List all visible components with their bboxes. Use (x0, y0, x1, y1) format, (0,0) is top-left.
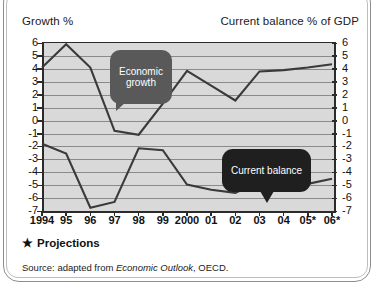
star-icon: ★ (22, 236, 33, 250)
x-axis-tick-mark (65, 211, 67, 216)
projections-footnote-text: Projections (37, 237, 100, 249)
callout-tail-icon (260, 191, 274, 203)
y2-axis-tick-label: -7 (342, 205, 368, 216)
y-axis-tick-label: 6 (12, 37, 38, 48)
left-axis-caption: Growth % (22, 15, 73, 27)
callout-economic-growth-label: Economic growth (119, 66, 163, 89)
source-note: Source: adapted from Economic Outlook, O… (22, 262, 228, 273)
source-publication: Economic Outlook (116, 262, 193, 273)
x-axis-tick-mark (210, 211, 212, 216)
y-axis-tick-label: -5 (12, 179, 38, 190)
y2-axis-tick-label: -2 (342, 140, 368, 151)
x-axis-tick-mark (307, 211, 309, 216)
callout-current-balance-label: Current balance (231, 165, 302, 176)
y2-axis-tick-mark (332, 107, 337, 109)
y2-axis-tick-mark (332, 146, 337, 148)
x-axis-tick-label: 96 (84, 215, 96, 226)
y2-axis-tick-label: -1 (342, 128, 368, 139)
y2-axis-tick-mark (332, 159, 337, 161)
callout-economic-growth: Economic growth (110, 50, 172, 104)
x-axis-tick-label: 99 (157, 215, 169, 226)
source-prefix: Source: adapted from (22, 262, 116, 273)
x-axis-tick-label: 06* (324, 215, 341, 226)
callout-current-balance: Current balance (222, 149, 311, 192)
y2-axis-tick-label: 5 (342, 50, 368, 61)
y-axis-tick-label: -4 (12, 166, 38, 177)
y2-axis-tick-mark (332, 172, 337, 174)
y-axis-tick-label: 4 (12, 63, 38, 74)
x-axis-tick-label: 01 (205, 215, 217, 226)
y2-axis-tick-mark (332, 185, 337, 187)
y-axis-tick-label: 5 (12, 50, 38, 61)
x-axis-tick-label: 04 (278, 215, 290, 226)
source-suffix: , OECD. (193, 262, 228, 273)
y-axis-tick-label: -3 (12, 153, 38, 164)
y2-axis-tick-label: -4 (342, 166, 368, 177)
x-axis-tick-label: 02 (229, 215, 241, 226)
y-axis-tick-label: 0 (12, 115, 38, 126)
y2-axis-tick-label: 0 (342, 115, 368, 126)
y2-axis-tick-mark (332, 120, 337, 122)
x-axis-tick-mark (259, 211, 261, 216)
x-axis-tick-mark (162, 211, 164, 216)
x-axis-tick-mark (138, 211, 140, 216)
right-axis-caption: Current balance % of GDP (220, 15, 359, 27)
x-axis-tick-label: 05* (300, 215, 317, 226)
y2-axis-tick-mark (332, 43, 337, 45)
x-axis-tick-mark (114, 211, 116, 216)
x-axis-tick-mark (186, 211, 188, 216)
y2-axis-tick-mark (332, 198, 337, 200)
y2-axis-tick-label: 6 (342, 37, 368, 48)
y2-axis-tick-label: -5 (342, 179, 368, 190)
x-axis-tick-label: 95 (60, 215, 72, 226)
y2-axis-tick-label: 4 (342, 63, 368, 74)
line-economic-growth (42, 44, 332, 134)
y-axis-tick-label: 2 (12, 89, 38, 100)
callout-tail-icon (116, 102, 126, 111)
y2-axis-tick-mark (332, 81, 337, 83)
y2-axis-tick-label: 1 (342, 102, 368, 113)
y2-axis-tick-mark (332, 94, 337, 96)
x-axis-tick-mark (331, 211, 333, 216)
projections-footnote: ★Projections (22, 236, 100, 250)
y2-axis-tick-label: -3 (342, 153, 368, 164)
x-axis-tick-mark (41, 211, 43, 216)
plot-bottom-axis (42, 211, 336, 213)
x-axis-tick-label: 03 (253, 215, 265, 226)
x-axis-tick-mark (235, 211, 237, 216)
x-axis-tick-label: 98 (133, 215, 145, 226)
x-axis-tick-label: 2000 (175, 215, 199, 226)
y2-axis-tick-label: 2 (342, 89, 368, 100)
y2-axis-tick-label: -6 (342, 192, 368, 203)
y2-axis-tick-mark (332, 55, 337, 57)
y-axis-tick-label: -1 (12, 128, 38, 139)
x-axis-tick-mark (90, 211, 92, 216)
y-axis-tick-label: -6 (12, 192, 38, 203)
y-axis-tick-label: -2 (12, 140, 38, 151)
y2-axis-tick-mark (332, 133, 337, 135)
y-axis-tick-label: 1 (12, 102, 38, 113)
y2-axis-tick-mark (332, 68, 337, 70)
x-axis-tick-mark (283, 211, 285, 216)
x-axis-tick-label: 97 (108, 215, 120, 226)
y-axis-tick-label: 3 (12, 76, 38, 87)
y2-axis-tick-label: 3 (342, 76, 368, 87)
chart-figure: Growth % Current balance % of GDP 654321… (0, 0, 377, 287)
x-axis-tick-label: 1994 (30, 215, 54, 226)
